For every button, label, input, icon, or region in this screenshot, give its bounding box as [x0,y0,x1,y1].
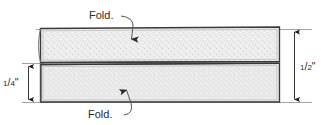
fold-bottom-label: Fold. [88,108,112,120]
dimension-quarter-inch: 1/4" [3,67,29,100]
quarter-inch-dim-label: 1/4" [3,76,19,88]
lower-folded-panel [41,63,280,102]
fold-top-label: Fold. [89,9,113,21]
quarter-inch-unit: " [15,76,19,88]
fold-diagram-canvas: Fold. Fold. 1/4" 1/2" [0,0,321,125]
half-inch-unit: " [312,60,316,72]
upper-folded-panel [39,27,280,63]
lower-panel-outline [41,63,280,102]
fold-diagram: Fold. Fold. 1/4" 1/2" [0,0,321,125]
upper-panel-outline [41,27,280,63]
half-inch-dim-label: 1/2" [300,60,316,72]
dimension-half-inch: 1/2" [295,32,316,100]
